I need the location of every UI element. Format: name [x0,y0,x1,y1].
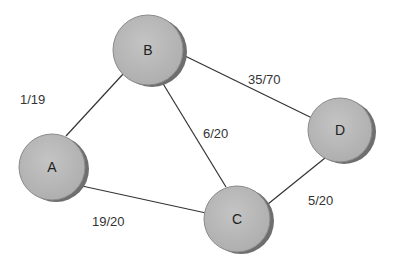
node-b: B [113,15,187,87]
node-a: A [19,134,89,202]
node-label-c: C [232,211,242,227]
node-label-b: B [143,42,152,58]
node-c: C [204,186,274,254]
network-diagram: 1/19 19/20 6/20 35/70 5/20 B A C D [0,0,395,263]
edge-label-a-c: 19/20 [92,214,125,229]
edge-a-c [82,186,206,213]
node-label-a: A [47,159,57,175]
edge-label-b-d: 35/70 [248,72,281,87]
edge-label-c-d: 5/20 [308,193,333,208]
edge-label-a-b: 1/19 [20,92,45,107]
edge-a-b [66,73,124,136]
node-d: D [308,98,376,164]
edge-label-b-c: 6/20 [203,126,228,141]
node-label-d: D [335,122,345,138]
